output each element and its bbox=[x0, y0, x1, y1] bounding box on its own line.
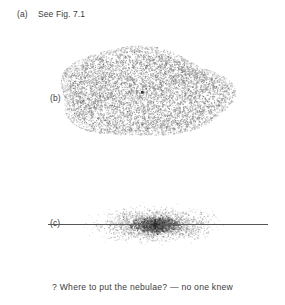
stipple-dot-group bbox=[61, 45, 237, 136]
panel-a-label: (a) bbox=[17, 9, 28, 19]
figure-caption: ? Where to put the nebulae? — no one kne… bbox=[0, 282, 285, 292]
panel-a-reference-text: See Fig. 7.1 bbox=[38, 9, 85, 19]
scatter-dot-group bbox=[84, 202, 231, 245]
panel-b-star-cloud-diagram bbox=[45, 44, 240, 142]
center-marker-icon bbox=[141, 91, 144, 94]
figure-page: (a) See Fig. 7.1 (b) (c) ? Where to put … bbox=[0, 0, 285, 305]
panel-c-galactic-disk-diagram bbox=[40, 178, 280, 273]
